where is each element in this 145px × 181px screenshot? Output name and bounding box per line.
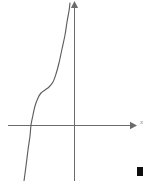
end-of-proof-marker <box>137 167 143 176</box>
y-axis-arrowhead <box>71 1 78 8</box>
x-axis-label: x <box>139 118 144 126</box>
figure-container: x <box>0 0 145 181</box>
cubic-curve <box>24 3 70 181</box>
x-axis: x <box>8 118 144 129</box>
x-axis-arrowhead <box>130 122 137 129</box>
graph-canvas: x <box>0 0 145 181</box>
curve-series-group <box>24 3 70 181</box>
y-axis <box>71 1 78 181</box>
